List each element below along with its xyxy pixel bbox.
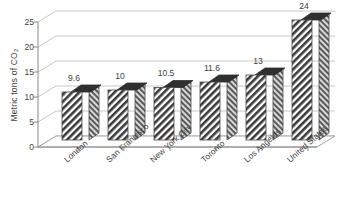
- value-label: 13: [243, 57, 273, 66]
- value-label: 10.5: [151, 69, 181, 78]
- y-axis-ticks: [34, 22, 38, 147]
- bar-toronto: [200, 75, 239, 140]
- bar-united-states: [292, 13, 331, 140]
- co2-bar-chart: Metric tons of CO2 0 5 10 15 20 25: [0, 0, 343, 216]
- bar-london: [62, 85, 101, 140]
- value-label: 24: [289, 2, 319, 11]
- plot-area: [0, 0, 343, 216]
- value-label: 11.6: [197, 64, 227, 73]
- value-label: 10: [105, 72, 135, 81]
- value-label: 9.6: [59, 74, 89, 83]
